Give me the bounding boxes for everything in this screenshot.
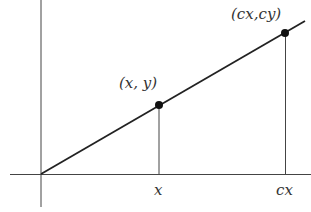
label-point-cxcy: (cx,cy) xyxy=(231,5,281,23)
scaling-diagram: (x, y) (cx,cy) x cx xyxy=(0,0,311,212)
point-xy xyxy=(155,101,163,109)
label-point-xy: (x, y) xyxy=(119,74,157,92)
point-cxcy xyxy=(281,29,289,37)
tick-label-x: x xyxy=(154,181,163,199)
origin-line xyxy=(41,21,305,174)
tick-label-cx: cx xyxy=(276,181,293,199)
